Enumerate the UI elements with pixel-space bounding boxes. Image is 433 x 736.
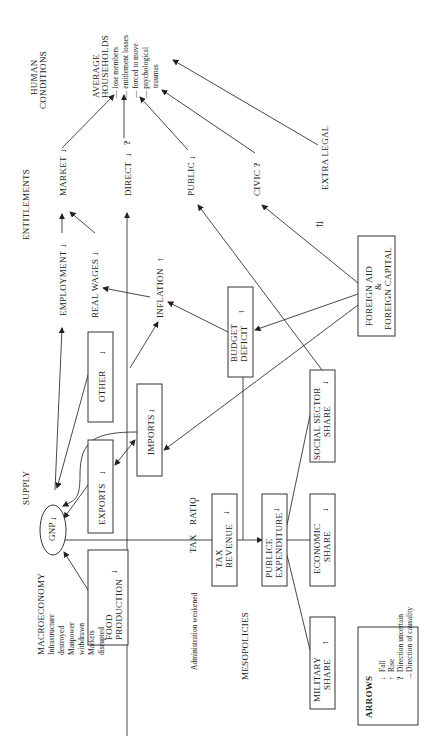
legend-rise-label: Rise bbox=[387, 658, 396, 672]
entitlements-label: ENTITLEMENTS bbox=[21, 169, 31, 240]
social-label-2: SHARE bbox=[322, 406, 332, 437]
direct-label: DIRECT bbox=[123, 162, 133, 196]
rise-icon: ↑ bbox=[320, 640, 330, 645]
exports-label: EXPORTS bbox=[97, 483, 107, 525]
tax-label: TAX bbox=[188, 534, 198, 553]
military-label-2: SHARE bbox=[322, 659, 332, 690]
foreign-label-1: FOREIGN AID bbox=[364, 266, 374, 326]
fall-icon: ↓ bbox=[58, 243, 68, 248]
fall-icon: ↓ bbox=[221, 510, 231, 515]
foreign-label-3: FOREIGN CAPITAL bbox=[383, 247, 393, 330]
food-label-2: PRODUCTION bbox=[114, 579, 124, 640]
legend-title: ARROWS bbox=[364, 676, 374, 718]
rise-icon: ↑ bbox=[236, 309, 246, 314]
fall-icon: ↓ bbox=[97, 470, 107, 475]
military-label-1: MILITARY bbox=[312, 657, 322, 702]
conditions-label: CONDITIONS bbox=[38, 51, 48, 109]
public-exp-label-1: PUBLICE bbox=[264, 538, 274, 578]
legend-causality-symbol: → bbox=[405, 673, 414, 681]
fall-icon: ↓ bbox=[48, 516, 58, 521]
household-item: — forced to move bbox=[131, 43, 140, 99]
fall-icon: ↓ bbox=[320, 507, 330, 512]
fall-icon: ↓ bbox=[97, 350, 107, 355]
household-item: — entitlement losses bbox=[121, 35, 130, 99]
legend-uncertain-symbol: ? bbox=[396, 676, 405, 680]
gnp-label: GNP bbox=[47, 522, 57, 541]
legend-fall-label: Fall bbox=[378, 660, 387, 672]
fall-icon: ↓ bbox=[58, 148, 68, 153]
households-title-2: HOUSEHOLDS bbox=[100, 35, 110, 98]
household-item: — lose members bbox=[111, 47, 120, 99]
rise-fall-icon: ⇅ bbox=[315, 220, 325, 228]
extra-legal-label: EXTRA LEGAL bbox=[320, 125, 330, 190]
uncertain-icon: ? bbox=[122, 140, 132, 145]
macro-line: Infrastructure bbox=[47, 614, 56, 655]
social-label-1: SOCIAL SECTOR bbox=[312, 387, 322, 460]
macro-line: disrupted bbox=[97, 627, 106, 655]
fall-icon: ↓ bbox=[191, 498, 201, 503]
labels: HUMAN CONDITIONS ENTITLEMENTS SUPPLY AVE… bbox=[21, 35, 414, 718]
fall-icon: ↓ bbox=[90, 251, 100, 256]
mesopolicies-label: MESOPOLICIES bbox=[240, 612, 250, 680]
legend-fall-symbol: ↓ bbox=[378, 676, 387, 680]
rise-icon: ↑ bbox=[155, 257, 165, 262]
macro-line: Markets bbox=[87, 630, 96, 655]
household-item: — psychological bbox=[141, 47, 150, 99]
imports-label: IMPORTS bbox=[146, 414, 156, 455]
fall-icon: ↓ bbox=[187, 155, 197, 160]
budget-label-1: BUDGET bbox=[229, 324, 239, 362]
employment-label: EMPLOYMENT bbox=[58, 250, 68, 316]
real-wages-label: REAL WAGES bbox=[90, 259, 100, 318]
macro-line: destroyed bbox=[57, 626, 66, 655]
legend-uncertain-label: Direction uncertain bbox=[396, 614, 405, 672]
tax-revenue-label-1: TAX bbox=[214, 549, 224, 568]
macro-line: withdrawn bbox=[77, 623, 86, 655]
budget-label-2: DEFICIT bbox=[239, 325, 249, 362]
fall-icon: ↓ bbox=[146, 408, 156, 413]
uncertain-icon: ? bbox=[252, 162, 262, 167]
fall-icon: ↓ bbox=[320, 380, 330, 385]
foreign-label-2: & bbox=[373, 283, 383, 290]
household-item: traumas bbox=[151, 64, 160, 88]
other-label: OTHER bbox=[97, 371, 107, 403]
macro-line: Manpower bbox=[67, 622, 76, 655]
fall-icon: ↓ bbox=[271, 507, 281, 512]
inflation-label: INFLATION bbox=[155, 268, 165, 318]
economic-label-1: ECONOMIC bbox=[312, 524, 322, 574]
fall-icon: ↓ bbox=[123, 152, 133, 157]
economic-label-2: SHARE bbox=[322, 531, 332, 562]
public-exp-label-2: EXPENDITURE bbox=[274, 513, 284, 578]
legend-rise-symbol: ↑ bbox=[387, 676, 396, 680]
admin-label: Administration weakened bbox=[190, 592, 199, 670]
causality-diagram: HUMAN CONDITIONS ENTITLEMENTS SUPPLY AVE… bbox=[0, 0, 433, 736]
civic-label: CIVIC bbox=[252, 170, 262, 196]
market-label: MARKET bbox=[58, 156, 68, 196]
supply-label: SUPPLY bbox=[21, 470, 31, 505]
fall-icon: ↓ bbox=[109, 569, 119, 574]
public-label: PUBLIC bbox=[186, 162, 196, 196]
tax-revenue-label-2: REVENUE bbox=[224, 524, 234, 568]
macro-title: MACROECONOMY bbox=[36, 573, 46, 655]
legend-causality-label: Direction of causality bbox=[405, 607, 414, 672]
